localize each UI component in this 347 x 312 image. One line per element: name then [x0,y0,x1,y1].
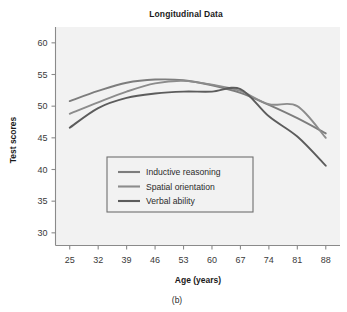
y-tick-label: 45 [37,133,47,143]
y-tick-label: 40 [37,165,47,175]
legend-label-3: Verbal ability [146,196,195,206]
x-tick-label: 53 [179,255,189,265]
y-axis-title: Test scores [8,116,18,163]
y-tick-label: 35 [37,196,47,206]
y-tick-label: 30 [37,228,47,238]
x-tick-label: 74 [264,255,274,265]
legend-label-1: Inductive reasoning [146,167,221,177]
y-tick-label: 50 [37,101,47,111]
x-tick-label: 32 [93,255,103,265]
y-tick-label: 60 [37,38,47,48]
chart-legend: Inductive reasoningSpatial orientationVe… [107,157,253,212]
legend-label-2: Spatial orientation [146,182,215,192]
x-tick-label: 39 [122,255,132,265]
x-tick-label: 81 [292,255,302,265]
figure-caption: (b) [172,295,183,305]
x-tick-label: 60 [207,255,217,265]
chart-title: Longitudinal Data [149,9,223,19]
x-tick-label: 46 [150,255,160,265]
x-tick-label: 67 [235,255,245,265]
x-tick-label: 88 [321,255,331,265]
x-axis-title: Age (years) [175,275,221,285]
y-tick-label: 55 [37,70,47,80]
chart-figure: Longitudinal Data 30354045505560 2532394… [0,0,347,312]
x-tick-label: 25 [65,255,75,265]
line-chart-svg: Longitudinal Data 30354045505560 2532394… [0,0,347,312]
